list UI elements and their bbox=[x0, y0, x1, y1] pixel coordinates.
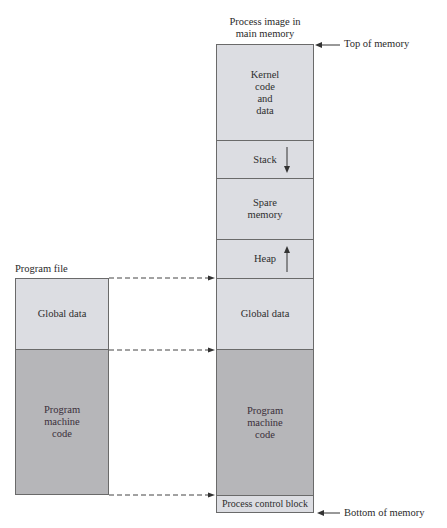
arrow-up-icon bbox=[284, 246, 290, 272]
bottom-of-memory-arrow-icon bbox=[317, 510, 340, 516]
arrow-down-icon bbox=[284, 147, 290, 173]
mapping-arrow-global-data bbox=[109, 276, 215, 281]
top-of-memory-arrow-icon bbox=[315, 42, 340, 48]
mapping-arrow-end-of-program bbox=[109, 493, 215, 498]
mapping-arrow-program-code bbox=[109, 348, 215, 353]
arrows-overlay bbox=[0, 0, 447, 528]
